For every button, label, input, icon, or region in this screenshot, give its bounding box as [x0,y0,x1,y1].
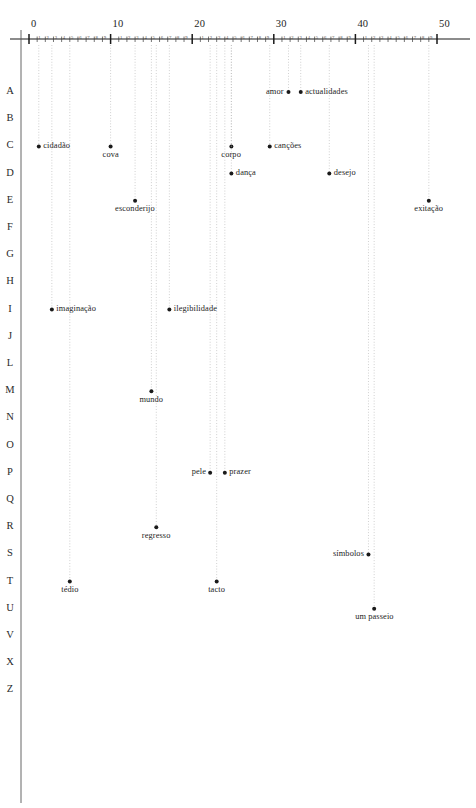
point-label: imaginação [56,304,96,313]
x-axis-minor-tick-label: 1 [120,35,122,40]
row-letter-q: Q [3,493,17,504]
x-axis-tick-label: 40 [357,18,368,29]
x-axis-minor-tick-label: 4 [308,35,310,40]
point-label: regresso [142,531,171,540]
row-letter-i: I [3,303,17,314]
x-axis-minor-tick-label: 9 [104,35,106,40]
row-letter-o: O [3,439,17,450]
point-label: exitação [414,204,443,213]
point-label: canções [274,141,301,150]
data-point[interactable] [229,172,233,176]
x-axis-minor-tick-label: 6 [242,35,244,40]
x-axis-minor-tick-label: 2 [291,35,293,40]
plot-canvas [0,0,476,808]
row-letter-n: N [3,411,17,422]
row-letter-a: A [3,85,17,96]
data-point[interactable] [372,607,376,611]
x-axis-tick-label: 50 [439,18,450,29]
x-axis-minor-tick-label: 6 [79,35,81,40]
x-axis-minor-tick-label: 2 [373,35,375,40]
x-axis-minor-tick-label: 8 [177,35,179,40]
x-axis-minor-tick-label: 1 [202,35,204,40]
x-axis-minor-tick-label: 5 [153,35,155,40]
data-point[interactable] [37,144,41,148]
x-axis-minor-tick-label: 9 [348,35,350,40]
x-axis-minor-tick-label: 8 [422,35,424,40]
data-point[interactable] [208,471,212,475]
x-axis-minor-tick-label: 9 [185,35,187,40]
x-axis-minor-tick-label: 7 [87,35,89,40]
x-axis-minor-tick-label: 5 [234,35,236,40]
point-label: desejo [334,168,356,177]
x-axis-minor-tick-label: 4 [63,35,65,40]
row-letter-m: M [3,384,17,395]
row-letter-f: F [3,221,17,232]
x-axis-minor-tick-label: 4 [389,35,391,40]
data-point[interactable] [50,308,54,312]
x-axis-minor-tick-label: 5 [316,35,318,40]
x-axis-minor-tick-label: 5 [71,35,73,40]
data-point[interactable] [154,525,158,529]
row-letter-x: X [3,656,17,667]
index-plot-figure: 0123456789101234567892012345678930123456… [0,0,476,808]
row-letter-s: S [3,547,17,558]
row-letter-z: Z [3,683,17,694]
x-axis-minor-tick-label: 7 [414,35,416,40]
data-point[interactable] [223,471,227,475]
data-point[interactable] [68,580,72,584]
x-axis-minor-tick-label: 8 [95,35,97,40]
point-label: actualidades [305,87,348,96]
data-point[interactable] [133,199,137,203]
point-label: mundo [139,395,163,404]
row-letter-v: V [3,629,17,640]
row-letter-c: C [3,139,17,150]
point-label: um passeio [355,612,393,621]
x-axis-minor-tick-label: 3 [299,35,301,40]
data-point[interactable] [427,199,431,203]
point-label: prazer [229,467,251,476]
x-axis-minor-tick-label: 8 [259,35,261,40]
data-point[interactable] [286,90,290,94]
row-letter-h: H [3,275,17,286]
x-axis-minor-tick-label: 1 [365,35,367,40]
x-axis-minor-tick-label: 2 [47,35,49,40]
data-point[interactable] [109,144,113,148]
data-point[interactable] [167,308,171,312]
x-axis-minor-tick-label: 3 [218,35,220,40]
point-label: ilegibilidade [174,304,217,313]
row-letter-t: T [3,575,17,586]
point-label: dança [236,168,256,177]
point-label: pele [192,467,206,476]
x-axis-minor-tick-label: 6 [406,35,408,40]
data-point[interactable] [215,580,219,584]
row-letter-r: R [3,520,17,531]
x-axis-minor-tick-label: 9 [267,35,269,40]
x-axis-minor-tick-label: 4 [144,35,146,40]
row-letter-g: G [3,248,17,259]
x-axis-minor-tick-label: 1 [38,35,40,40]
row-letter-p: P [3,466,17,477]
x-axis-tick-label: 30 [276,18,287,29]
row-letter-e: E [3,194,17,205]
x-axis-minor-tick-label: 3 [55,35,57,40]
point-label: tédio [61,585,78,594]
data-point[interactable] [366,552,370,556]
data-point[interactable] [299,90,303,94]
row-letter-b: B [3,112,17,123]
row-letter-d: D [3,167,17,178]
data-point[interactable] [327,172,331,176]
data-point[interactable] [268,144,272,148]
point-label: cova [103,150,119,159]
point-label: símbolos [333,549,364,558]
row-letter-j: J [3,330,17,341]
point-label: corpo [221,150,241,159]
x-axis-minor-tick-label: 5 [397,35,399,40]
x-axis-minor-tick-label: 7 [332,35,334,40]
data-point[interactable] [149,389,153,393]
row-letter-l: L [3,357,17,368]
x-axis-minor-tick-label: 7 [251,35,253,40]
x-axis-tick-label: 10 [113,18,124,29]
x-axis-minor-tick-label: 4 [226,35,228,40]
x-axis-minor-tick-label: 9 [430,35,432,40]
x-axis-minor-tick-label: 2 [210,35,212,40]
